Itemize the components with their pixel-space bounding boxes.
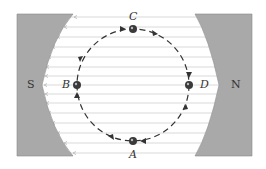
particle-d (185, 81, 193, 89)
particle-c (129, 25, 137, 33)
particle-a (129, 137, 137, 145)
diagram: S N C D A B (0, 0, 266, 169)
particle-b (73, 81, 81, 89)
point-label-a: A (129, 149, 137, 160)
point-label-b: B (62, 79, 70, 90)
point-label-d: D (200, 79, 209, 90)
pole-label-n: N (231, 79, 241, 90)
point-label-c: C (129, 11, 137, 22)
pole-label-s: S (27, 79, 35, 90)
diagram-canvas (0, 0, 266, 169)
